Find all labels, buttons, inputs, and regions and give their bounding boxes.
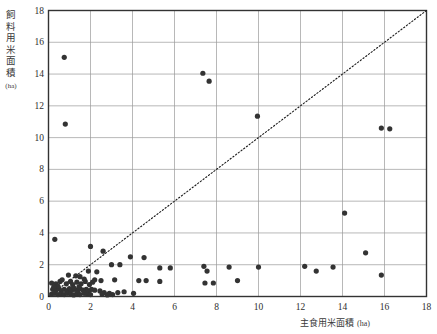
data-point — [235, 278, 240, 283]
data-point — [112, 277, 117, 282]
data-point — [52, 237, 57, 242]
data-point — [122, 289, 127, 294]
x-axis-title-text: 主食用米面積 — [300, 318, 354, 328]
data-point — [71, 285, 76, 290]
x-axis-title: 主食用米面積(ha) — [300, 316, 370, 329]
data-point — [201, 264, 206, 269]
data-point — [98, 278, 103, 283]
plot-area — [0, 0, 437, 334]
data-point — [302, 264, 307, 269]
data-point — [211, 280, 216, 285]
data-point — [88, 244, 93, 249]
data-point — [363, 250, 368, 255]
data-point-series — [49, 55, 392, 298]
data-point — [117, 262, 122, 267]
data-point — [227, 265, 232, 270]
data-point — [168, 265, 173, 270]
reference-line-identity — [49, 11, 427, 297]
data-point — [115, 290, 120, 295]
data-point — [207, 79, 212, 84]
x-axis-unit: (ha) — [357, 319, 370, 328]
data-point — [92, 288, 97, 293]
data-point — [387, 126, 392, 131]
data-point — [157, 265, 162, 270]
data-point — [200, 71, 205, 76]
data-point — [101, 249, 106, 254]
data-point — [76, 284, 81, 289]
data-point — [88, 292, 93, 297]
data-point — [66, 272, 71, 277]
data-point — [255, 114, 260, 119]
data-point — [63, 122, 68, 127]
data-point — [379, 125, 384, 130]
data-point — [342, 210, 347, 215]
data-point — [51, 284, 56, 289]
data-point — [204, 268, 209, 273]
data-point — [110, 292, 115, 297]
data-point — [99, 292, 104, 297]
data-point — [94, 269, 99, 274]
data-point — [83, 279, 88, 284]
data-point — [131, 291, 136, 296]
data-point — [62, 55, 67, 60]
data-point — [256, 265, 261, 270]
data-point — [144, 278, 149, 283]
data-point — [157, 279, 162, 284]
data-point — [86, 268, 91, 273]
data-point — [105, 292, 110, 297]
data-point — [330, 265, 335, 270]
data-point — [202, 280, 207, 285]
data-point — [141, 255, 146, 260]
scatter-chart: 飼 料 用 米 面 積 (ha) 024681012141618 0246810… — [0, 0, 437, 334]
data-point — [314, 268, 319, 273]
data-point — [379, 272, 384, 277]
data-point — [109, 262, 114, 267]
data-point — [90, 280, 95, 285]
data-point — [60, 277, 65, 282]
data-point — [136, 278, 141, 283]
data-point — [128, 254, 133, 259]
